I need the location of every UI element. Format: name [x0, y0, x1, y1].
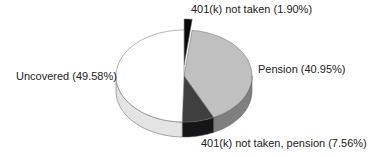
label-401k-not-taken: 401(k) not taken (1.90%)	[191, 3, 312, 16]
label-pension: Pension (40.95%)	[258, 63, 345, 76]
pie-tops	[116, 19, 252, 122]
label-401k-not-taken-pension: 401(k) not taken, pension (7.56%)	[201, 137, 367, 150]
label-uncovered: Uncovered (49.58%)	[16, 70, 117, 83]
